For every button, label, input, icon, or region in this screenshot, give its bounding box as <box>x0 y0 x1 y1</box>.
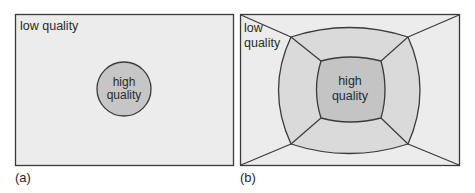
panel-b-inner-quality-label: quality <box>332 89 369 103</box>
panel-a-low-quality-label: low quality <box>20 19 79 33</box>
diagram-canvas: low quality high quality (a) low quality… <box>0 0 475 193</box>
panel-b-caption: (b) <box>240 170 256 185</box>
panel-a-caption: (a) <box>15 170 31 185</box>
panel-b-low-label: low <box>244 21 264 35</box>
panel-b: low quality high quality (b) <box>240 15 460 186</box>
panel-a-high-label: high <box>113 75 136 89</box>
panel-b-quality-label: quality <box>244 36 281 50</box>
panel-a: low quality high quality (a) <box>15 15 234 186</box>
panel-b-high-label: high <box>338 74 362 88</box>
panel-a-quality-label: quality <box>107 88 142 102</box>
